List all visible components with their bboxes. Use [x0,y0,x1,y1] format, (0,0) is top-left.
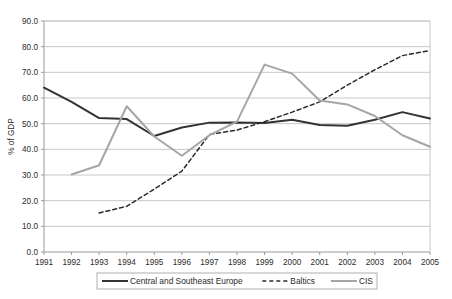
y-tick-label: 80.0 [22,43,38,52]
y-tick-label: 40.0 [22,145,38,154]
x-tick-label: 1999 [255,258,274,267]
y-tick-label: 60.0 [22,94,38,103]
x-tick-label: 2003 [366,258,385,267]
y-tick-label: 50.0 [22,120,38,129]
y-axis-title: % of GDP [7,118,16,155]
line-chart: 90.080.070.060.050.040.030.020.010.00.0 … [0,0,452,299]
y-axis-title-label: % of GDP [7,118,16,155]
x-tick-label: 2004 [393,258,412,267]
x-tick-label: 1995 [145,258,164,267]
x-tick-label: 2005 [421,258,440,267]
legend-item-label: Central and Southeast Europe [130,276,243,286]
y-tick-label: 30.0 [22,171,38,180]
legend-item-label: CIS [359,276,373,286]
chart-container: 90.080.070.060.050.040.030.020.010.00.0 … [0,0,452,299]
y-tick-label: 90.0 [22,17,38,26]
y-tick-label: 10.0 [22,222,38,231]
x-tick-label: 1993 [90,258,109,267]
x-tick-label: 1996 [173,258,192,267]
y-tick-label: 20.0 [22,197,38,206]
x-tick-label: 1994 [118,258,137,267]
y-tick-label: 70.0 [22,68,38,77]
x-tick-label: 1991 [35,258,54,267]
legend-item-label: Baltics [290,276,315,286]
x-tick-label: 2002 [338,258,357,267]
x-tick-label: 1992 [62,258,81,267]
x-tick-label: 1997 [200,258,219,267]
x-tick-label: 1998 [228,258,247,267]
x-tick-label: 2001 [311,258,330,267]
x-tick-label: 2000 [283,258,302,267]
y-tick-label: 0.0 [27,248,39,257]
